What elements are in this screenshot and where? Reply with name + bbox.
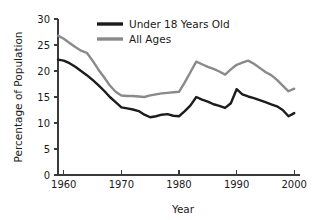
x-axis-title: Year xyxy=(171,203,195,215)
y-tick-label: 0 xyxy=(44,170,50,181)
y-axis: 051015202530 xyxy=(37,14,58,181)
x-tick-label: 1970 xyxy=(109,179,134,190)
x-tick-label: 1980 xyxy=(166,179,191,190)
poverty-rate-line-chart: 051015202530 19601970198019902000 Year P… xyxy=(0,0,325,220)
y-tick-label: 15 xyxy=(37,92,50,103)
x-tick-label: 1960 xyxy=(51,179,76,190)
chart-canvas: 051015202530 19601970198019902000 Year P… xyxy=(0,0,325,220)
series-line xyxy=(58,36,294,97)
y-tick-label: 5 xyxy=(44,144,50,155)
chart-legend: Under 18 Years OldAll Ages xyxy=(97,18,230,45)
y-tick-label: 10 xyxy=(37,118,50,129)
x-tick-label: 1990 xyxy=(224,179,249,190)
y-tick-label: 25 xyxy=(37,40,50,51)
y-tick-group: 051015202530 xyxy=(37,14,58,181)
legend-label: All Ages xyxy=(129,33,171,45)
legend-label: Under 18 Years Old xyxy=(129,18,230,30)
x-tick-label: 2000 xyxy=(282,179,307,190)
y-tick-label: 30 xyxy=(37,14,50,25)
y-tick-label: 20 xyxy=(37,66,50,77)
x-axis: 19601970198019902000 xyxy=(51,170,307,190)
y-axis-title: Percentage of Population xyxy=(12,31,24,162)
x-tick-group: 19601970198019902000 xyxy=(51,170,307,190)
data-series-group xyxy=(58,36,294,118)
